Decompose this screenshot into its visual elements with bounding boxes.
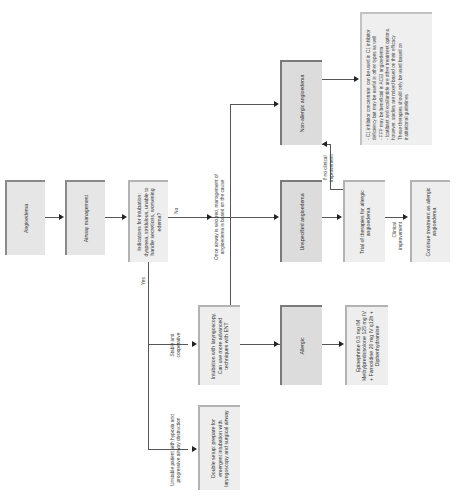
arrow-icon: [403, 215, 408, 221]
node-text: Unspecified angioedema: [299, 193, 306, 250]
node-intubation: Intubation with laryngoscopy. Can use mo…: [198, 305, 240, 385]
node-epinephrine: Epinephrine 0.5 mg IM Methylprednisolone…: [345, 305, 388, 385]
node-continue: Continue treatment as allergic angioedem…: [410, 180, 450, 262]
node-text: Continue treatment as allergic angioedem…: [425, 185, 438, 259]
arrow-icon: [274, 342, 279, 348]
node-text: Non-allergic angioedema: [299, 75, 306, 133]
arrow-icon: [274, 215, 279, 221]
connector: [45, 217, 60, 218]
node-indications: Indications for intubation: dyspnea, str…: [128, 180, 168, 262]
arrow-icon: [274, 102, 279, 108]
node-text: Epinephrine 0.5 mg IM Methylprednisolone…: [355, 310, 381, 382]
arrow-icon: [207, 215, 212, 221]
note-line: - C1 inhibitor concentrate: can be used …: [366, 19, 379, 140]
arrow-icon: [322, 142, 327, 148]
connector: [230, 217, 275, 218]
label-no: No: [174, 208, 180, 214]
connector: [105, 217, 123, 218]
node-angioedema: Angioedema: [5, 180, 45, 255]
node-non-allergic: Non-allergic angioedema: [280, 60, 322, 145]
node-text: Trial of therapies for allergic angioede…: [359, 185, 372, 259]
connector: [322, 217, 338, 218]
label-unstable: Unstable patient with hypoxia and progre…: [170, 410, 182, 490]
node-text: Indications for intubation: dyspnea, str…: [136, 185, 162, 259]
connector: [148, 449, 188, 450]
connector: [322, 79, 355, 80]
arrow-icon: [59, 215, 64, 221]
arrow-icon: [339, 342, 344, 348]
connector: [148, 345, 149, 450]
node-text: Airway management: [83, 195, 90, 242]
node-allergic: Allergic: [280, 305, 322, 385]
note-box: - C1 inhibitor concentrate: can be used …: [360, 12, 432, 145]
arrow-icon: [192, 447, 197, 453]
label-stable: Stable and cooperative: [170, 325, 182, 365]
arrow-icon: [122, 215, 127, 221]
connector: [385, 217, 405, 218]
node-text: Allergic: [299, 338, 306, 355]
connector: [230, 104, 275, 105]
connector: [322, 344, 340, 345]
note-line: - Icatibant and ecallantide are other tr…: [385, 19, 398, 140]
node-text: Intubation with laryngoscopy. Can use mo…: [210, 310, 230, 382]
connector: [148, 344, 188, 345]
node-unspecified: Unspecified angioedema: [280, 180, 322, 262]
arrow-icon: [337, 215, 342, 221]
node-airway-management: Airway management: [65, 180, 105, 255]
label-no-improvement: If no clinical improvement: [323, 148, 335, 188]
label-yes: Yes: [141, 277, 147, 285]
note-line: These therapies should only be used base…: [398, 19, 411, 140]
node-text: Double setup: prepare for emergent intub…: [210, 410, 230, 487]
label-clinical-improvement: Clinical improvement: [392, 222, 404, 260]
flowchart: Angioedema Airway management Indications…: [0, 0, 459, 500]
node-double-setup: Double setup: prepare for emergent intub…: [198, 405, 240, 490]
node-text: Angioedema: [23, 204, 30, 233]
label-once-secured: Once airway is secured, management of an…: [214, 172, 226, 262]
arrow-icon: [354, 77, 359, 83]
arrow-icon: [192, 342, 197, 348]
node-trial: Trial of therapies for allergic angioede…: [343, 180, 385, 262]
connector: [330, 189, 343, 190]
